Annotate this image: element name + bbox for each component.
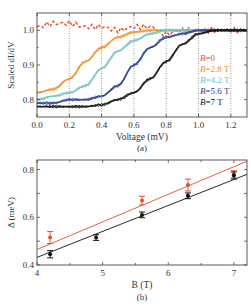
- panel-b-gap-vs-field: 45670.40.60.8B (T)Δ (meV)(b): [6, 160, 247, 302]
- data-point: [186, 183, 190, 187]
- y-tick-label: 0.6: [23, 212, 35, 222]
- legend-entry: B=5.6 T: [200, 86, 230, 96]
- legend-entry: B=2.8 T: [200, 64, 230, 74]
- x-tick-label: 0.4: [96, 120, 108, 130]
- panel-a-voltage-spectra: 0.00.20.40.60.81.01.20.80.91.0Voltage (m…: [6, 13, 247, 153]
- x-tick-label: 0.0: [31, 120, 43, 130]
- x-axis-label: B (T): [132, 280, 153, 291]
- data-point: [48, 252, 52, 256]
- data-point: [94, 236, 98, 240]
- x-tick-label: 4: [35, 268, 40, 278]
- panel-label: (a): [137, 143, 147, 153]
- x-tick-label: 6: [166, 268, 171, 278]
- series-line-b0: [37, 21, 247, 36]
- legend-value: =5.6 T: [206, 86, 230, 96]
- x-tick-label: 0.2: [64, 120, 75, 130]
- x-tick-label: 7: [232, 268, 237, 278]
- data-point: [186, 194, 190, 198]
- data-point: [48, 236, 52, 240]
- y-tick-label: 0.4: [23, 260, 35, 270]
- x-tick-label: 0.8: [161, 120, 173, 130]
- y-tick-label: 0.8: [23, 95, 35, 105]
- legend-value: =0: [206, 53, 216, 63]
- x-tick-label: 0.6: [128, 120, 140, 130]
- panel-label: (b): [137, 292, 148, 302]
- legend-value: =7 T: [206, 97, 224, 107]
- x-tick-label: 1.2: [225, 120, 236, 130]
- y-tick-label: 1.0: [23, 25, 35, 35]
- legend-entry: B=0: [200, 53, 216, 63]
- legend-entry: B=7 T: [200, 97, 223, 107]
- y-tick-label: 0.8: [23, 165, 35, 175]
- data-point: [232, 174, 236, 178]
- y-axis-label: Scaled dI/dV: [6, 41, 16, 89]
- y-tick-label: 0.9: [23, 60, 35, 70]
- x-axis-label: Voltage (mV): [116, 132, 168, 143]
- data-point: [140, 213, 144, 217]
- legend-value: =2.8 T: [206, 64, 230, 74]
- x-tick-label: 1.0: [193, 120, 205, 130]
- x-tick-label: 5: [100, 268, 105, 278]
- legend-value: =4.2 T: [206, 75, 230, 85]
- data-point: [140, 199, 144, 203]
- y-axis-label: Δ (meV): [6, 197, 16, 228]
- legend-entry: B=4.2 T: [200, 75, 230, 85]
- figure: 0.00.20.40.60.81.01.20.80.91.0Voltage (m…: [0, 0, 251, 308]
